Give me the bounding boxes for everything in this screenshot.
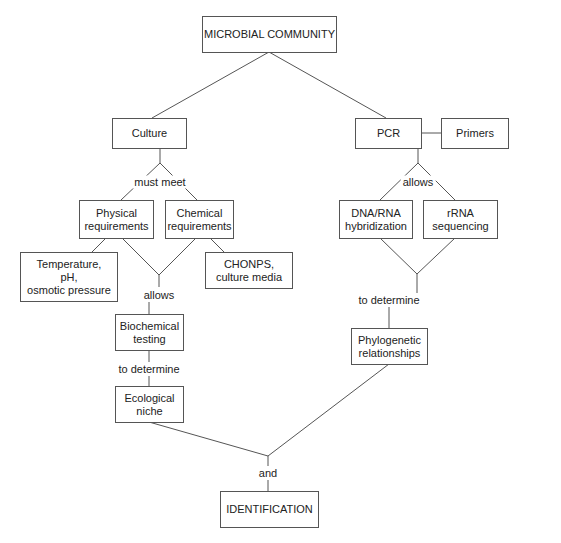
node-ecological-niche: Ecological niche xyxy=(115,386,184,423)
node-rrna-sequencing: rRNA sequencing xyxy=(423,200,498,239)
node-culture: Culture xyxy=(112,118,187,149)
node-identification: IDENTIFICATION xyxy=(220,491,319,528)
link-label-and: and xyxy=(257,467,279,480)
node-temperature-ph-osmotic: Temperature, pH, osmotic pressure xyxy=(20,252,118,302)
node-chemical-requirements: Chemical requirements xyxy=(165,200,234,239)
node-biochemical-testing: Biochemical testing xyxy=(115,314,184,351)
link-label-to-determine-left: to determine xyxy=(116,363,181,376)
node-chonps-culture-media: CHONPS, culture media xyxy=(205,252,293,289)
node-dna-rna-hybridization: DNA/RNA hybridization xyxy=(339,200,413,239)
link-label-allows-left: allows xyxy=(142,289,177,302)
link-label-must-meet: must meet xyxy=(132,176,187,189)
node-primers: Primers xyxy=(441,118,509,149)
node-pcr: PCR xyxy=(355,118,422,149)
node-phylogenetic-relationships: Phylogenetic relationships xyxy=(351,328,428,365)
node-physical-requirements: Physical requirements xyxy=(79,200,154,239)
node-microbial-community: MICROBIAL COMMUNITY xyxy=(202,16,337,53)
link-label-to-determine-right: to determine xyxy=(356,294,421,307)
link-label-allows-right: allows xyxy=(401,176,436,189)
